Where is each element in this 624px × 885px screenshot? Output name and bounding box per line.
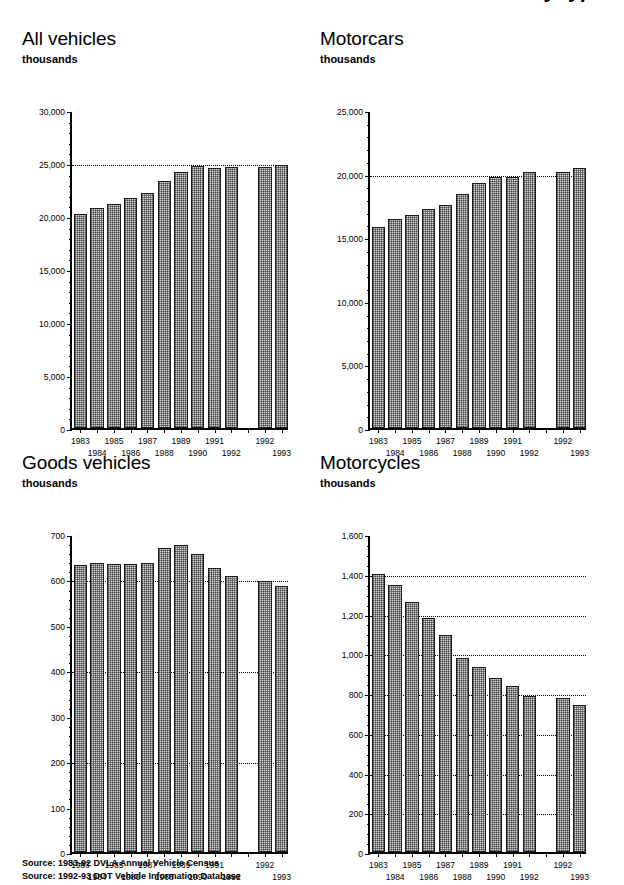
bar xyxy=(388,219,401,428)
y-axis-minor-tick xyxy=(367,645,370,646)
y-axis-minor-tick xyxy=(367,265,370,266)
y-axis-minor-tick xyxy=(367,625,370,626)
bar xyxy=(573,168,586,428)
y-axis-minor-tick xyxy=(367,125,370,126)
y-axis-minor-tick xyxy=(69,176,72,177)
y-axis-label: 200 xyxy=(349,810,363,819)
x-axis-tick xyxy=(231,428,232,433)
y-axis-minor-tick xyxy=(367,405,370,406)
chart-panel-all-vehicles: All vehiclesthousands05,00010,00015,0002… xyxy=(22,28,312,470)
chart-title: All vehicles xyxy=(22,28,312,50)
y-axis-minor-tick xyxy=(69,260,72,261)
x-axis-tick xyxy=(412,852,413,857)
y-axis-label: 20,000 xyxy=(337,171,363,180)
y-axis-tick xyxy=(67,218,72,219)
x-axis-tick xyxy=(462,852,463,857)
axes: 02004006008001,0001,2001,4001,6001983198… xyxy=(368,536,586,854)
y-axis-label: 25,000 xyxy=(337,108,363,117)
y-axis-tick xyxy=(67,324,72,325)
y-axis-minor-tick xyxy=(367,596,370,597)
x-axis-tick xyxy=(131,428,132,433)
y-axis-minor-tick xyxy=(69,700,72,701)
y-axis-label: 600 xyxy=(349,730,363,739)
y-axis-minor-tick xyxy=(367,715,370,716)
chart-unit-label: thousands xyxy=(22,52,312,66)
chart-unit-label: thousands xyxy=(320,52,610,66)
y-axis-label: 300 xyxy=(51,713,65,722)
x-axis-tick xyxy=(563,852,564,857)
x-axis-tick xyxy=(80,428,81,433)
y-axis-tick xyxy=(67,271,72,272)
y-axis-minor-tick xyxy=(69,827,72,828)
x-axis-break-tick xyxy=(248,852,249,857)
y-axis-minor-tick xyxy=(69,356,72,357)
y-axis-minor-tick xyxy=(69,239,72,240)
y-axis-minor-tick xyxy=(69,554,72,555)
bar xyxy=(107,564,120,852)
plot-area: 02004006008001,0001,2001,4001,6001983198… xyxy=(320,490,610,885)
y-axis-minor-tick xyxy=(69,398,72,399)
y-axis-minor-tick xyxy=(367,226,370,227)
x-axis-tick xyxy=(445,852,446,857)
bar xyxy=(124,564,137,852)
y-axis-tick xyxy=(365,854,370,855)
y-axis-minor-tick xyxy=(69,282,72,283)
y-axis-tick xyxy=(365,536,370,537)
y-axis-minor-tick xyxy=(367,566,370,567)
x-axis-label: 1987 xyxy=(436,436,455,446)
y-axis-minor-tick xyxy=(69,591,72,592)
y-axis-minor-tick xyxy=(367,341,370,342)
y-axis-minor-tick xyxy=(69,197,72,198)
y-axis-minor-tick xyxy=(367,328,370,329)
bar xyxy=(124,198,137,428)
bar xyxy=(225,167,238,428)
y-axis-minor-tick xyxy=(367,214,370,215)
y-axis-minor-tick xyxy=(69,799,72,800)
y-axis-label: 1,200 xyxy=(342,611,363,620)
x-axis-label: 1990 xyxy=(486,872,505,882)
y-axis-minor-tick xyxy=(367,201,370,202)
y-axis-label: 1,400 xyxy=(342,571,363,580)
y-axis-tick xyxy=(365,430,370,431)
bar xyxy=(472,667,485,852)
x-axis-tick xyxy=(580,852,581,857)
y-axis-minor-tick xyxy=(69,645,72,646)
bar xyxy=(225,576,238,852)
y-axis-minor-tick xyxy=(367,765,370,766)
bar xyxy=(74,565,87,852)
chart-panel-motorcars: Motorcarsthousands05,00010,00015,00020,0… xyxy=(320,28,610,470)
bar xyxy=(208,568,221,852)
y-axis-minor-tick xyxy=(367,844,370,845)
y-axis-minor-tick xyxy=(69,745,72,746)
bar xyxy=(456,658,469,852)
x-axis-tick xyxy=(580,428,581,433)
y-axis-minor-tick xyxy=(69,727,72,728)
chart-panel-motorcycles: Motorcyclesthousands02004006008001,0001,… xyxy=(320,452,610,885)
x-axis-label: 1989 xyxy=(470,436,489,446)
y-axis-tick xyxy=(67,854,72,855)
y-axis-minor-tick xyxy=(69,250,72,251)
x-axis-tick xyxy=(445,428,446,433)
x-axis-tick xyxy=(412,428,413,433)
y-axis-tick xyxy=(67,112,72,113)
y-axis-minor-tick xyxy=(367,546,370,547)
y-axis-minor-tick xyxy=(69,229,72,230)
x-axis-label: 1983 xyxy=(369,436,388,446)
y-axis-minor-tick xyxy=(367,606,370,607)
axes: 0100200300400500600700198319841985198619… xyxy=(70,536,288,854)
y-axis-label: 800 xyxy=(349,691,363,700)
bar xyxy=(523,172,536,428)
y-axis-minor-tick xyxy=(69,335,72,336)
x-axis-label: 1989 xyxy=(172,436,191,446)
bar xyxy=(489,177,502,428)
x-axis-label: 1991 xyxy=(503,860,522,870)
gridline xyxy=(370,576,586,577)
x-axis-tick xyxy=(395,852,396,857)
source-notes: Source: 1983-92 DVLA Annual Vehicle Cens… xyxy=(22,857,241,882)
bar xyxy=(439,635,452,852)
y-axis-minor-tick xyxy=(69,545,72,546)
x-axis-label: 1989 xyxy=(470,860,489,870)
y-axis-minor-tick xyxy=(367,163,370,164)
y-axis-label: 0 xyxy=(60,426,65,435)
y-axis-minor-tick xyxy=(367,675,370,676)
